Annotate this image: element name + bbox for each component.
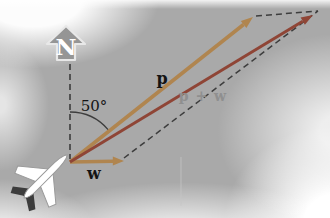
vector-p-label: p	[156, 69, 167, 88]
angle-label: 50°	[81, 97, 108, 115]
vector-diagram: N 50° w p p + w	[0, 0, 330, 218]
airplane-icon	[1, 136, 87, 218]
diagram-canvas: N 50° w p p + w	[0, 0, 330, 218]
vector-resultant-label: p + w	[179, 88, 227, 104]
north-label: N	[55, 33, 76, 60]
parallelogram-dashed-top	[256, 11, 318, 16]
vector-w-arrowhead	[113, 156, 124, 165]
north-arrow-icon: N	[47, 26, 85, 60]
parallelogram-dashed-diagonal	[124, 11, 318, 158]
vector-w-label: w	[86, 164, 102, 183]
